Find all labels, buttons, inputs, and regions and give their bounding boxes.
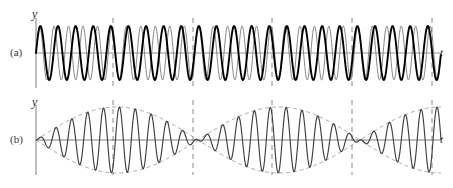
waveform-plot <box>0 0 453 188</box>
panel-b-tag: (b) <box>10 134 23 145</box>
beats-figure: (a) y t (b) y t <box>0 0 453 188</box>
panel-a-group <box>36 18 441 88</box>
panel-b-group <box>36 105 441 175</box>
panel-b-y-axis-label: y <box>32 96 37 108</box>
panel-b-envelope-upper <box>36 107 441 140</box>
panel-a-wave-thick <box>36 26 441 80</box>
panel-a-t-axis-label: t <box>440 47 443 58</box>
panel-a-tag: (a) <box>10 47 22 58</box>
panel-b-t-axis-label: t <box>440 134 443 145</box>
panel-a-y-axis-label: y <box>32 8 37 20</box>
